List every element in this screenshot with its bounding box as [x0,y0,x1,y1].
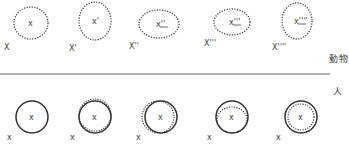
inner-label: x [229,113,234,122]
outer-label: X''' [204,39,216,48]
animal-row: xXx'X'x''X''x'''X'''x''''X'''' [4,2,312,53]
animal-item: x'X' [69,2,111,53]
animal-item: x''''X'''' [272,3,312,52]
human-item: xx [207,101,248,142]
human-row: xxxxxxxxxx [7,99,317,142]
animal-item: xX [4,7,48,52]
inner-label: x [28,19,33,28]
animal-item: x''X'' [129,10,179,51]
animal-human-diagram: xXx'X'x''X''x'''X'''x''''X'''' xxxxxxxxx… [0,0,349,149]
outer-label: X [4,43,10,52]
inner-label: x [29,113,34,122]
human-label: 人 [333,85,343,98]
human-item: xx [70,99,111,142]
outer-label: X'''' [272,43,286,52]
outer-label: X'' [129,42,139,51]
human-item: xx [136,101,177,142]
inner-label: x'''' [294,17,308,26]
outer-label: x [136,133,141,142]
animal-item: x'''X''' [204,9,250,48]
outer-label: X' [69,44,77,53]
outer-label: x [276,133,281,142]
inner-label: x [92,113,97,122]
outer-label: x [70,133,75,142]
inner-label: x'' [156,20,165,29]
animal-label: 動物 [329,52,349,65]
outer-label: x [7,133,12,142]
inner-label: x [298,113,303,122]
inner-label: x [158,113,163,122]
inner-label: x''' [229,18,240,27]
human-item: xx [276,101,317,142]
outer-label: x [207,133,212,142]
human-item: xx [7,101,48,142]
inner-label: x' [92,17,99,26]
